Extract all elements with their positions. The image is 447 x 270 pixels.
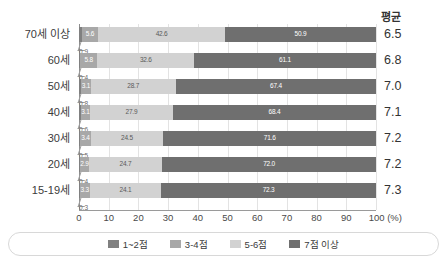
category-label: 40세 bbox=[0, 105, 70, 120]
legend-swatch-icon bbox=[170, 240, 181, 248]
mean-value: 7.2 bbox=[384, 157, 434, 172]
legend-item[interactable]: 7점 이상 bbox=[289, 237, 339, 251]
x-tick-label: 60 bbox=[252, 212, 263, 223]
stacked-bar: 0.95.642.650.9 bbox=[79, 27, 376, 42]
mean-value: 7.3 bbox=[384, 183, 434, 198]
bar-row: 30세0.53.424.571.60.57.2 bbox=[79, 131, 376, 146]
stacked-bar: 0.45.832.661.1 bbox=[79, 53, 376, 68]
x-tick-label: 20 bbox=[133, 212, 144, 223]
segment-value-label: 42.6 bbox=[156, 31, 168, 38]
segment-value-label: 71.6 bbox=[264, 135, 276, 142]
x-tick-label: 100 (%) bbox=[369, 212, 402, 223]
x-tick-label: 50 bbox=[222, 212, 233, 223]
segment-value-label: 3.4 bbox=[81, 135, 89, 142]
bar-row: 40세0.63.127.968.40.67.1 bbox=[79, 105, 376, 120]
plot-area: 70세 이상0.95.642.650.90.96.560세0.45.832.66… bbox=[79, 24, 376, 210]
segment-value-label: 3.1 bbox=[81, 109, 89, 116]
category-label: 30세 bbox=[0, 131, 70, 146]
category-label: 70세 이상 bbox=[0, 27, 70, 42]
bar-segment-s4: 61.1 bbox=[194, 53, 375, 68]
stacked-bar: 0.83.128.767.4 bbox=[79, 79, 376, 94]
segment-value-label: 32.6 bbox=[140, 57, 152, 64]
legend-label: 3-4점 bbox=[185, 237, 208, 251]
legend-swatch-icon bbox=[289, 240, 300, 248]
bar-row: 20세0.42.924.772.00.47.2 bbox=[79, 157, 376, 172]
segment-value-label: 72.3 bbox=[263, 187, 275, 194]
x-tick-label: 90 bbox=[341, 212, 352, 223]
segment-value-label: 68.4 bbox=[268, 109, 280, 116]
mean-value: 6.8 bbox=[384, 53, 434, 68]
segment-value-label: 24.7 bbox=[120, 161, 132, 168]
bar-segment-s3: 32.6 bbox=[97, 53, 194, 68]
mean-value: 7.0 bbox=[384, 79, 434, 94]
segment-value-label: 5.6 bbox=[86, 31, 94, 38]
legend-item[interactable]: 5-6점 bbox=[230, 237, 268, 251]
stacked-bar: 0.63.127.968.4 bbox=[79, 105, 376, 120]
bar-row: 60세0.45.832.661.10.46.8 bbox=[79, 53, 376, 68]
bar-segment-s2: 3.1 bbox=[81, 105, 90, 120]
x-tick-label: 40 bbox=[193, 212, 204, 223]
category-label: 15-19세 bbox=[0, 183, 70, 198]
bar-segment-s4: 67.4 bbox=[176, 79, 376, 94]
legend-item[interactable]: 1~2점 bbox=[108, 237, 148, 251]
bar-segment-s3: 27.9 bbox=[90, 105, 173, 120]
segment-value-label: 67.4 bbox=[270, 83, 282, 90]
category-label: 20세 bbox=[0, 157, 70, 172]
stacked-bar: 0.42.924.772.0 bbox=[79, 157, 376, 172]
legend-swatch-icon bbox=[108, 240, 119, 248]
bar-segment-s4: 72.0 bbox=[162, 157, 376, 172]
category-label: 50세 bbox=[0, 79, 70, 94]
bar-row: 15-19세0.33.324.172.30.37.3 bbox=[79, 183, 376, 198]
bar-segment-s4: 71.6 bbox=[163, 131, 376, 146]
mean-value: 7.1 bbox=[384, 105, 434, 120]
stacked-bar: 0.53.424.571.6 bbox=[79, 131, 376, 146]
x-tick-label: 0 bbox=[76, 212, 81, 223]
segment-value-label: 3.3 bbox=[81, 187, 89, 194]
legend: 1~2점3-4점5-6점7점 이상 bbox=[8, 232, 439, 256]
segment-value-label: 24.1 bbox=[120, 187, 132, 194]
bar-segment-s3: 28.7 bbox=[91, 79, 176, 94]
legend-item[interactable]: 3-4점 bbox=[170, 237, 208, 251]
bar-segment-s3: 24.1 bbox=[90, 183, 162, 198]
segment-value-label: 24.5 bbox=[121, 135, 133, 142]
stacked-bar-chart: 평균 70세 이상0.95.642.650.90.96.560세0.45.832… bbox=[0, 0, 447, 270]
bar-segment-s2: 3.3 bbox=[80, 183, 90, 198]
segment-value-label: 27.9 bbox=[125, 109, 137, 116]
x-tick-label: 10 bbox=[103, 212, 114, 223]
legend-label: 5-6점 bbox=[245, 237, 268, 251]
segment-value-label: 5.8 bbox=[85, 57, 93, 64]
category-label: 60세 bbox=[0, 53, 70, 68]
legend-swatch-icon bbox=[230, 240, 241, 248]
segment-value-label: 61.1 bbox=[279, 57, 291, 64]
bar-segment-s2: 2.9 bbox=[80, 157, 89, 172]
bar-segment-s2: 5.8 bbox=[80, 53, 97, 68]
segment-value-label: 50.9 bbox=[294, 31, 306, 38]
bar-row: 50세0.83.128.767.40.87.0 bbox=[79, 79, 376, 94]
bar-segment-s3: 42.6 bbox=[98, 27, 225, 42]
segment-value-label: 2.9 bbox=[80, 161, 88, 168]
gridline bbox=[376, 24, 377, 210]
mean-column-header: 평균 bbox=[381, 8, 441, 24]
stacked-bar: 0.33.324.172.3 bbox=[79, 183, 376, 198]
bar-segment-s2: 3.4 bbox=[80, 131, 90, 146]
legend-label: 1~2점 bbox=[123, 237, 148, 251]
bar-row: 70세 이상0.95.642.650.90.96.5 bbox=[79, 27, 376, 42]
x-tick-label: 70 bbox=[282, 212, 293, 223]
bar-segment-s3: 24.7 bbox=[89, 157, 162, 172]
mean-value: 7.2 bbox=[384, 131, 434, 146]
segment-value-label: 72.0 bbox=[263, 161, 275, 168]
x-axis-tick-labels: 0102030405060708090100 (%) bbox=[79, 212, 419, 226]
bar-segment-s4: 68.4 bbox=[173, 105, 376, 120]
legend-label: 7점 이상 bbox=[304, 237, 339, 251]
mean-value: 6.5 bbox=[384, 27, 434, 42]
x-axis-line bbox=[79, 210, 376, 211]
x-tick-label: 80 bbox=[311, 212, 322, 223]
bar-segment-s3: 24.5 bbox=[91, 131, 164, 146]
segment-value-label: 3.1 bbox=[82, 83, 90, 90]
x-tick-label: 30 bbox=[163, 212, 174, 223]
bar-segment-s4: 50.9 bbox=[225, 27, 376, 42]
bar-segment-s4: 72.3 bbox=[161, 183, 376, 198]
segment-value-label: 28.7 bbox=[127, 83, 139, 90]
bar-segment-s2: 5.6 bbox=[82, 27, 99, 42]
bar-segment-s2: 3.1 bbox=[81, 79, 90, 94]
